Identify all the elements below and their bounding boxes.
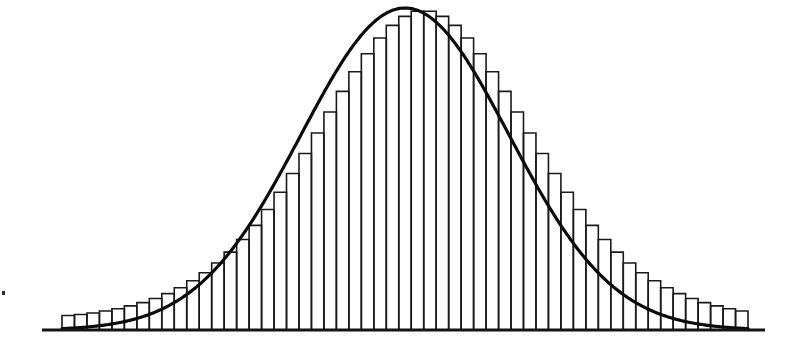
figure-canvas	[0, 0, 801, 346]
histogram-chart	[0, 0, 801, 346]
scan-speck-artifact	[2, 291, 5, 295]
